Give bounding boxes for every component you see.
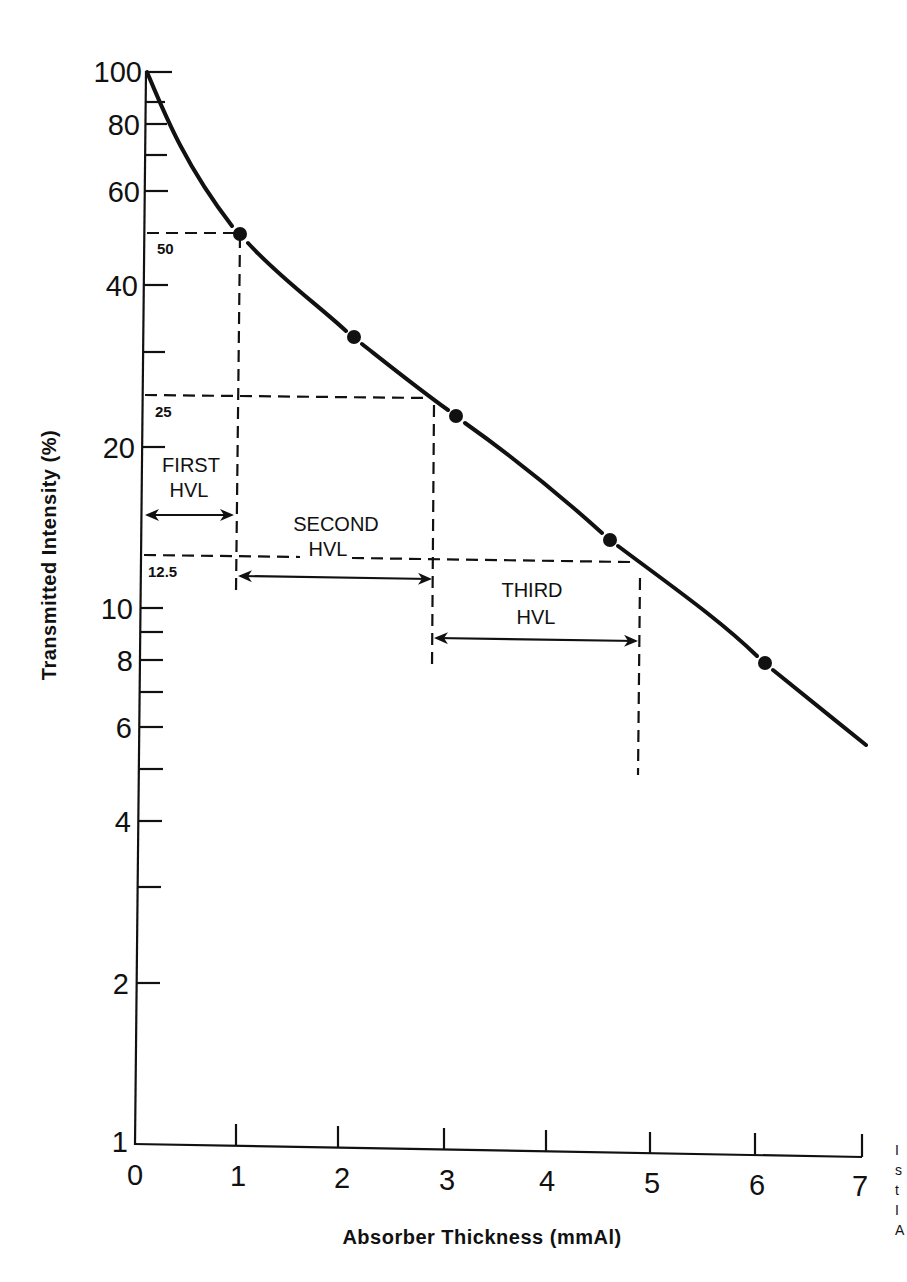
x-tick-2: 2 <box>334 1162 350 1194</box>
second-hvl-arrow <box>240 576 430 579</box>
x-tick-labels: 0 1 2 3 4 5 6 7 <box>127 1159 868 1202</box>
y-tick-4: 4 <box>115 806 131 838</box>
ref-label-25: 25 <box>155 403 172 420</box>
y-tick-40: 40 <box>106 270 138 302</box>
y-tick-6: 6 <box>116 712 132 744</box>
x-tick-3: 3 <box>439 1164 455 1196</box>
y-tick-80: 80 <box>108 109 140 141</box>
caption-fragment: s <box>895 1160 907 1180</box>
hvl-annotations: FIRST HVL SECOND HVL THIRD HVL <box>162 454 562 628</box>
third-hvl-arrow <box>436 638 636 641</box>
third-label: THIRD <box>501 579 562 601</box>
caption-fragment: t <box>895 1180 907 1200</box>
caption-fragment: A <box>895 1220 907 1240</box>
x-axis <box>134 1124 862 1157</box>
y-tick-20: 20 <box>103 432 135 464</box>
y-tick-1: 1 <box>112 1126 128 1158</box>
first-label: FIRST <box>162 454 220 476</box>
data-point <box>603 533 617 547</box>
data-point <box>449 409 463 423</box>
data-point <box>233 227 247 241</box>
ref-label-12-5: 12.5 <box>148 563 177 580</box>
y-tick-60: 60 <box>108 176 140 208</box>
caption-fragment: I <box>895 1140 907 1160</box>
ref-label-50: 50 <box>157 240 174 257</box>
hvl-attenuation-chart: 100 80 60 40 20 10 8 6 4 2 1 0 1 2 3 4 5… <box>0 0 907 1282</box>
caption-fragment: I <box>895 1200 907 1220</box>
x-tick-4: 4 <box>539 1165 555 1197</box>
x-tick-5: 5 <box>644 1167 660 1199</box>
data-point <box>758 656 772 670</box>
y-tick-100: 100 <box>94 56 142 88</box>
y-tick-10: 10 <box>101 593 133 625</box>
reference-lines <box>144 233 640 775</box>
data-point <box>347 330 361 344</box>
second-label: SECOND <box>293 513 379 535</box>
third-hvl-label: HVL <box>517 606 556 628</box>
y-tick-2: 2 <box>113 968 129 1000</box>
first-hvl-label: HVL <box>170 479 209 501</box>
x-tick-7: 7 <box>852 1170 868 1202</box>
x-tick-6: 6 <box>749 1169 765 1201</box>
x-axis-title: Absorber Thickness (mmAl) <box>342 1226 621 1248</box>
y-axis-title: Transmitted Intensity (%) <box>38 430 60 680</box>
attenuation-curve <box>147 72 866 745</box>
y-tick-labels: 100 80 60 40 20 10 8 6 4 2 1 <box>94 56 142 1158</box>
second-hvl-label: HVL <box>309 538 348 560</box>
x-tick-0: 0 <box>127 1159 143 1191</box>
cropped-caption-text: I s t I A <box>895 1140 907 1240</box>
y-tick-8: 8 <box>117 645 133 677</box>
x-tick-1: 1 <box>230 1160 246 1192</box>
hvl-arrows <box>147 515 636 641</box>
